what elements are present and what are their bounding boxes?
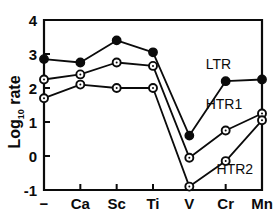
x-axis: −CaScTiVCrMn xyxy=(40,184,273,212)
data-point-center xyxy=(79,73,81,75)
y-axis-tick-label: 3 xyxy=(29,46,37,63)
x-axis-tick-label: V xyxy=(184,195,194,212)
data-point xyxy=(185,131,193,139)
data-point-center xyxy=(261,119,263,121)
y-axis-tick-label: 4 xyxy=(29,12,38,29)
data-point-center xyxy=(188,186,190,188)
series-annotation-htr2: HTR2 xyxy=(217,161,254,177)
y-axis-tick-label: -1 xyxy=(24,182,37,199)
y-axis: 43210-1 xyxy=(24,12,50,199)
data-point xyxy=(76,58,84,66)
data-point xyxy=(149,48,157,56)
data-point xyxy=(221,77,229,85)
chart-figure: 43210-1−CaScTiVCrMnLog10 rateLTRHTR1HTR2 xyxy=(0,0,277,224)
data-point-center xyxy=(261,113,263,115)
data-point-center xyxy=(79,84,81,86)
y-axis-tick-label: 2 xyxy=(29,80,37,97)
data-point xyxy=(258,75,266,83)
series-annotation-ltr: LTR xyxy=(206,56,231,72)
data-point-center xyxy=(43,79,45,81)
data-point-center xyxy=(116,62,118,64)
x-axis-tick-label: − xyxy=(40,195,49,212)
y-axis-tick-label: 1 xyxy=(29,114,37,131)
data-point-center xyxy=(43,97,45,99)
data-point xyxy=(40,55,48,63)
data-point-center xyxy=(152,65,154,67)
y-axis-tick-label: 0 xyxy=(29,148,37,165)
data-point-center xyxy=(225,130,227,132)
x-axis-tick-label: Mn xyxy=(251,195,273,212)
data-point-center xyxy=(152,87,154,89)
x-axis-tick-label: Ca xyxy=(71,195,91,212)
data-point-center xyxy=(188,157,190,159)
line-chart: 43210-1−CaScTiVCrMnLog10 rateLTRHTR1HTR2 xyxy=(0,0,277,224)
series-annotation-htr1: HTR1 xyxy=(206,96,243,112)
x-axis-tick-label: Ti xyxy=(146,195,159,212)
y-axis-title: Log10 rate xyxy=(6,75,26,148)
data-point-center xyxy=(116,87,118,89)
svg-text:Log10 rate: Log10 rate xyxy=(6,75,26,148)
data-point xyxy=(112,36,120,44)
x-axis-tick-label: Sc xyxy=(107,195,125,212)
x-axis-tick-label: Cr xyxy=(217,195,234,212)
